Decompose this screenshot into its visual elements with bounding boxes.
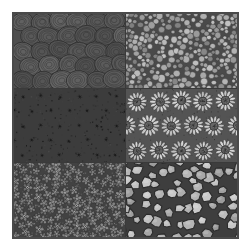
texture-cell-top-right xyxy=(126,14,237,88)
texture-cell-top-left xyxy=(14,14,125,88)
texture-swatch-small-petal-flowers xyxy=(14,163,125,237)
texture-cell-bottom-left xyxy=(14,163,125,237)
texture-swatch-white-heart-petal-flowers xyxy=(14,89,125,163)
texture-swatch-concentric-swirl-blobs xyxy=(14,14,125,88)
texture-swatch-cobblestone-polygons xyxy=(126,163,237,237)
texture-grid xyxy=(12,12,239,239)
figure-root xyxy=(0,0,251,252)
texture-swatch-packed-pebbles xyxy=(126,14,237,88)
texture-swatch-radiating-sunflowers xyxy=(126,89,237,163)
texture-cell-middle-right xyxy=(126,89,237,163)
texture-cell-middle-left xyxy=(14,89,125,163)
texture-cell-bottom-right xyxy=(126,163,237,237)
